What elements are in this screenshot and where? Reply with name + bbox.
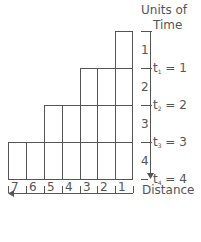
distance-tick-5: 5 xyxy=(47,181,55,193)
time-interval-2: 2 xyxy=(141,81,149,93)
staircase-diagram xyxy=(0,0,201,242)
row-3-block xyxy=(45,106,133,143)
distance-label: Distance xyxy=(142,184,194,196)
axis-title-line1: Units of xyxy=(141,4,187,16)
distance-tick-2: 2 xyxy=(100,181,108,193)
row-4-block xyxy=(9,143,133,180)
time-marker-2: t2 = 2 xyxy=(153,99,187,112)
axis-title-line2: Time xyxy=(153,19,182,31)
distance-tick-7: 7 xyxy=(11,181,19,193)
time-interval-3: 3 xyxy=(141,118,149,130)
time-marker-3: t3 = 3 xyxy=(153,136,187,149)
row-1-block xyxy=(116,32,133,69)
distance-tick-4: 4 xyxy=(65,181,73,193)
row-2-block xyxy=(81,69,133,106)
distance-tick-6: 6 xyxy=(29,181,37,193)
time-interval-1: 1 xyxy=(141,44,149,56)
time-interval-4: 4 xyxy=(141,155,149,167)
distance-tick-3: 3 xyxy=(83,181,91,193)
time-marker-1: t1 = 1 xyxy=(153,62,187,75)
distance-tick-1: 1 xyxy=(118,181,126,193)
